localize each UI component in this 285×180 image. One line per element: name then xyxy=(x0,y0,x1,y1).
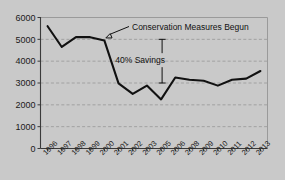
y-tick-label: 2000 xyxy=(15,100,35,110)
line-chart: 0100020003000400050006000 19961997199819… xyxy=(0,0,285,180)
conservation-annotation-label: Conservation Measures Begun xyxy=(132,22,249,32)
savings-annotation-label: 40% Savings xyxy=(115,55,165,65)
y-tick-label: 3000 xyxy=(15,78,35,88)
chart-container: 0100020003000400050006000 19961997199819… xyxy=(0,0,285,180)
y-tick-label: 0 xyxy=(30,144,35,154)
y-tick-label: 5000 xyxy=(15,35,35,45)
y-tick-label: 6000 xyxy=(15,13,35,23)
y-tick-label: 4000 xyxy=(15,56,35,66)
y-tick-label: 1000 xyxy=(15,122,35,132)
